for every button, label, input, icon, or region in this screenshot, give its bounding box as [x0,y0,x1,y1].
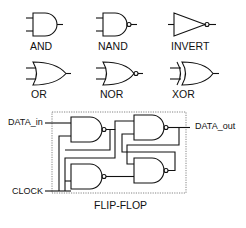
nand-gate-icon [96,13,137,36]
inverter-gate-icon [168,13,216,36]
clock-label: CLOCK [12,186,43,196]
gate-label-or: OR [31,88,47,100]
data-out-label: DATA_out [195,121,235,131]
flip-flop-title: FLIP-FLOP [94,199,147,211]
xor-gate-icon [170,62,219,85]
gate-label-xor: XOR [172,88,195,100]
nor-gate-icon [96,62,143,85]
ff-nand-4-icon [134,158,168,183]
ff-nand-1-icon [71,117,106,142]
ff-nand-3-icon [134,115,168,140]
ff-nand-2-icon [71,164,106,189]
gate-label-invert: INVERT [171,40,209,52]
flip-flop-wires [45,121,190,191]
gate-label-and: AND [30,40,52,52]
or-gate-icon [26,62,71,85]
gate-label-nand: NAND [98,40,128,52]
and-gate-icon [26,13,63,36]
gate-label-nor: NOR [100,88,123,100]
data-in-label: DATA_in [8,117,43,127]
